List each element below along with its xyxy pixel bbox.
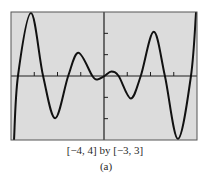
plot-area: [0, 0, 210, 144]
viewing-window-label: [−4, 4] by [−3, 3]: [0, 144, 210, 157]
graphing-calculator-figure: [−4, 4] by [−3, 3] (a): [0, 0, 210, 176]
figure-sub-label: (a): [0, 160, 210, 173]
